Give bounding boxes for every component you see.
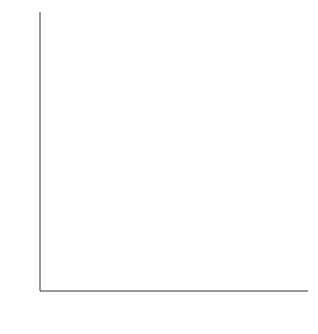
scatter-plot-figure: [0, 0, 318, 334]
axes-group: [40, 12, 308, 291]
axis-spines: [40, 12, 308, 291]
plot-canvas: [0, 0, 318, 334]
